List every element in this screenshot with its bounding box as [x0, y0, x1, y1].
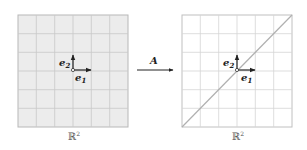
origin-point — [235, 68, 238, 71]
right-plane: e2 e1 ℝ2 — [182, 15, 292, 142]
map-label: A — [149, 55, 158, 66]
linear-map-diagram: e2 e1 ℝ2 A e2 e1 ℝ2 — [0, 0, 307, 150]
linear-map: A — [137, 55, 173, 70]
left-plane: e2 e1 ℝ2 — [18, 15, 128, 142]
right-plane-label: ℝ2 — [232, 130, 244, 142]
left-plane-label: ℝ2 — [68, 130, 80, 142]
